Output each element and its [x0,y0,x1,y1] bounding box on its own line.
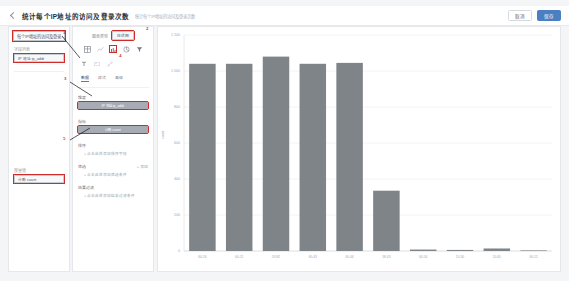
chart-type-icons [73,45,153,53]
metric-chip-count[interactable]: 计数 count [14,175,64,183]
section-title-metric: 指标 [78,118,153,124]
chart-type-label: 图表类型 [92,33,108,39]
chart-type-value[interactable]: 柱状图 [112,31,134,40]
dataset-select[interactable]: 每个IP地址的访问及登录... [13,31,65,41]
save-button[interactable]: 保存 [537,10,561,21]
section-title-filter: 筛选 + 添加 [78,163,153,169]
svg-text:10.30: 10.30 [456,255,464,259]
page-title: 统计每个IP地址的访问及登录次数 [22,11,129,21]
svg-text:0: 0 [178,249,180,253]
annotation-4: 4 [119,53,122,58]
annotation-1: 1 [63,30,66,35]
svg-text:60.54: 60.54 [419,255,427,259]
app-root: 统计每个IP地址的访问及登录次数 统计每个IP地址的访问及登录次数 取消 保存 … [0,0,569,281]
svg-text:60.21: 60.21 [235,255,243,259]
svg-text:59.82: 59.82 [272,255,280,259]
dimension-label: 维度 [78,95,86,100]
section-title-dimension: 维度 [78,94,153,100]
svg-text:600: 600 [174,141,180,145]
svg-text:800: 800 [174,105,180,109]
metric-chip[interactable]: 计数 count [78,126,148,133]
y-axis-title: count [161,131,165,139]
config-tabs: 数据 样式 高级 [81,74,153,82]
dimension-chip[interactable]: IP 地址 ip_addr [78,102,148,109]
workspace: 每个IP地址的访问及登录... 字段列表 IP 地址 ip_addr 度量值 计… [0,26,569,276]
tab-advanced[interactable]: 高级 [115,74,123,82]
section-title-sort: 排序 [78,142,153,148]
fields-label: 字段列表 [14,46,69,52]
pie-chart-icon[interactable] [122,45,130,53]
text-tool-icon[interactable] [80,60,88,68]
left-divider [14,71,64,72]
tab-data[interactable]: 数据 [81,74,89,82]
annotation-5: 5 [63,136,66,141]
annotation-3: 3 [64,76,67,81]
svg-text:60.26: 60.26 [198,255,206,259]
add-result-filter-condition[interactable]: + 点击此处添加结果过滤条件 [84,193,153,198]
add-filter-button[interactable]: + 添加 [137,163,148,169]
svg-text:60.44: 60.44 [345,255,353,259]
bar-chart: count 02004006008001 0001 20060.2660.215… [158,27,562,273]
image-tool-icon[interactable] [93,60,101,68]
filter-funnel-icon[interactable] [135,45,143,53]
chart-svg: 02004006008001 0001 20060.2660.2159.8260… [158,27,562,273]
add-filter-condition[interactable]: + 点击此处添加筛选条件 [84,172,153,177]
link-tool-icon[interactable] [106,60,114,68]
cancel-button[interactable]: 取消 [508,10,532,21]
field-chip-ip[interactable]: IP 地址 ip_addr [14,54,64,62]
svg-text:1 000: 1 000 [171,69,180,73]
metric-label: 指标 [78,119,86,124]
chart-preview-panel: count 02004006008001 0001 20060.2660.215… [157,26,561,272]
sort-label: 排序 [78,143,86,148]
svg-text:58.43: 58.43 [382,255,390,259]
annotation-2: 2 [146,26,149,31]
tool-icons-row [80,60,153,68]
tabs-divider [77,87,149,88]
line-chart-icon[interactable] [96,45,104,53]
section-title-result-filter: 结果过滤 [78,184,153,190]
result-filter-label: 结果过滤 [78,185,94,190]
bar-chart-icon[interactable] [109,45,117,53]
tab-style[interactable]: 样式 [98,74,106,82]
chart-type-row: 图表类型 柱状图 [73,31,153,40]
metrics-label: 度量值 [14,167,69,173]
filter-label: 筛选 [78,164,86,169]
page-header: 统计每个IP地址的访问及登录次数 统计每个IP地址的访问及登录次数 取消 保存 [0,6,569,26]
table-view-icon[interactable] [83,45,91,53]
dataset-panel: 每个IP地址的访问及登录... 字段列表 IP 地址 ip_addr 度量值 计… [8,26,70,272]
svg-text:10.65: 10.65 [493,255,501,259]
add-sort-field[interactable]: + 点击此处添加排序字段 [84,151,153,156]
page-subtitle: 统计每个IP地址的访问及登录次数 [135,13,195,19]
svg-text:1 200: 1 200 [171,33,180,37]
svg-text:200: 200 [174,213,180,217]
svg-text:60.43: 60.43 [309,255,317,259]
back-chevron-icon[interactable] [8,11,17,20]
chart-config-panel: 图表类型 柱状图 [72,26,154,272]
svg-text:400: 400 [174,177,180,181]
svg-text:60.12: 60.12 [529,255,537,259]
